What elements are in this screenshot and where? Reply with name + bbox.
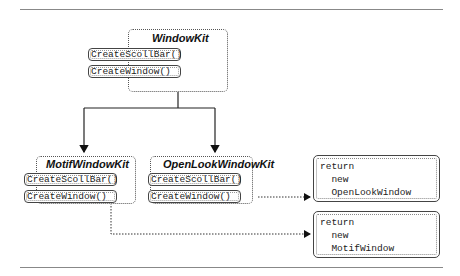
windowkit-class-name: WindowKit — [152, 32, 209, 44]
motifwindowkit-class-name: MotifWindowKit — [46, 158, 129, 170]
openlookwindowkit-class-name: OpenLookWindowKit — [163, 158, 274, 170]
openlook-createwindow-impl-note: return new OpenLookWindow — [313, 155, 440, 202]
code-line: OpenLookWindow — [320, 186, 433, 199]
motifwindowkit-method-createscollbar: CreateScollBar() — [24, 173, 117, 186]
code-line: return — [320, 216, 433, 229]
windowkit-method-createscollbar: CreateScollBar() — [88, 48, 181, 61]
code-line: new — [320, 173, 433, 186]
motifwindowkit-method-createwindow: CreateWindow() — [24, 190, 117, 203]
code-line: return — [320, 160, 433, 173]
openlookwindowkit-method-createwindow: CreateWindow() — [148, 190, 241, 203]
windowkit-method-createwindow: CreateWindow() — [88, 65, 181, 78]
motif-createwindow-impl-note: return new MotifWindow — [313, 211, 440, 258]
openlookwindowkit-method-createscollbar: CreateScollBar() — [148, 173, 241, 186]
code-line: MotifWindow — [320, 242, 433, 255]
code-line: new — [320, 229, 433, 242]
